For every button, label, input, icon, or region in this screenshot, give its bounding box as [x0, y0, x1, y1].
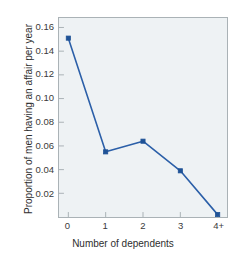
plot-area [58, 17, 228, 218]
x-tick-label: 4+ [204, 221, 234, 231]
x-tick-label: 2 [128, 221, 158, 231]
x-tick-label: 0 [52, 221, 82, 231]
line-series-svg [59, 18, 227, 217]
chart-figure: 0.16 0.14 0.12 0.10 0.08 0.06 0.04 0.02 … [0, 0, 246, 259]
x-tick-label: 3 [166, 221, 196, 231]
y-axis-title: Proportion of men having an affair per y… [24, 12, 34, 226]
x-tick-label: 1 [90, 221, 120, 231]
x-axis-title: Number of dependents [0, 239, 246, 249]
